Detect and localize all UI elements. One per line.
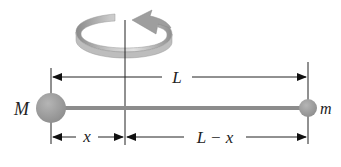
label-x: x [82,127,91,146]
dimension-L: L [52,68,307,87]
label-L: L [171,68,181,87]
mass-M-ball [36,93,66,123]
dimension-x: x [52,127,124,146]
rotating-rod-diagram: L M m x L − x [0,0,341,167]
label-M: M [13,99,30,119]
rotation-arrow-icon [76,10,172,58]
mass-m-ball [299,99,317,117]
dimension-L-minus-x: L − x [126,128,307,147]
label-m: m [320,100,332,117]
label-L-minus-x: L − x [196,128,234,147]
